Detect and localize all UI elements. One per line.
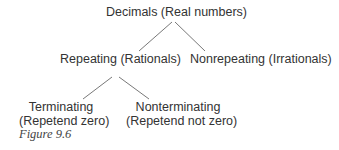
node-decimals: Decimals (Real numbers) (106, 5, 247, 19)
node-terminating-title: Terminating (19, 100, 103, 114)
node-terminating: Terminating (Repetend zero) (19, 100, 103, 128)
edge-repeating-nonterminating (119, 77, 149, 99)
node-repeating: Repeating (Rationals) (60, 52, 181, 66)
figure-caption: Figure 9.6 (19, 127, 71, 142)
node-nonrepeating: Nonrepeating (Irrationals) (190, 52, 332, 66)
edge-repeating-terminating (83, 77, 112, 99)
edge-root-nonrepeating (175, 22, 205, 51)
node-nonterminating: Nonterminating (Repetend not zero) (126, 100, 230, 128)
node-terminating-subtitle: (Repetend zero) (19, 114, 103, 128)
node-nonterminating-subtitle: (Repetend not zero) (126, 114, 230, 128)
node-nonterminating-title: Nonterminating (126, 100, 230, 114)
edge-root-repeating (139, 22, 172, 51)
